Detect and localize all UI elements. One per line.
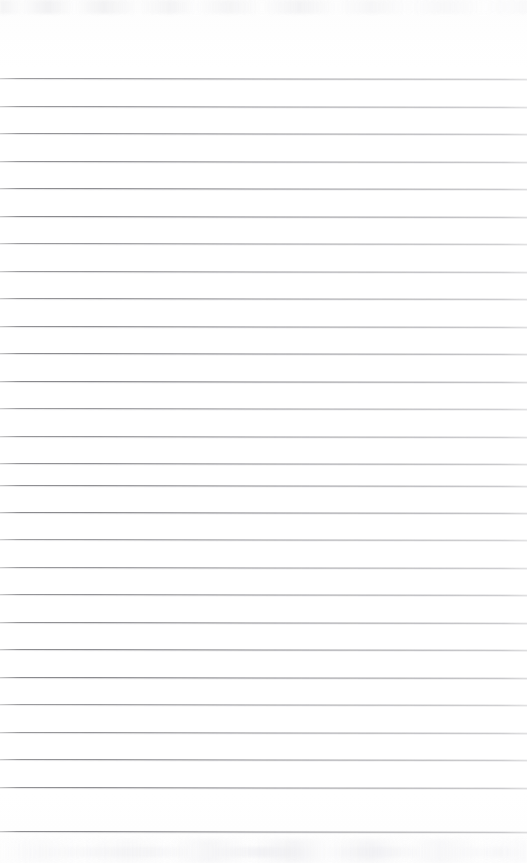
rule-line [0, 216, 527, 218]
rule-line [0, 463, 527, 465]
rule-line [0, 567, 527, 569]
rule-line [0, 326, 527, 328]
rule-line [0, 353, 527, 355]
rule-line [0, 133, 527, 135]
scanned-page [0, 0, 527, 863]
rule-line [0, 436, 527, 438]
rule-line [0, 704, 527, 706]
rule-line [0, 381, 527, 383]
rule-line [0, 78, 527, 80]
rule-line [0, 759, 527, 761]
rule-line [0, 594, 527, 596]
rule-line [0, 408, 527, 410]
rule-line [0, 732, 527, 734]
rule-line [0, 161, 527, 163]
rule-line [0, 787, 527, 789]
rule-line [0, 243, 527, 245]
rule-line [0, 831, 527, 833]
rule-line [0, 485, 527, 487]
rule-line [0, 649, 527, 651]
rule-line [0, 539, 527, 541]
rule-line [0, 271, 527, 273]
rule-line [0, 298, 527, 300]
ruled-lines-group [0, 0, 527, 863]
rule-line [0, 512, 527, 514]
rule-line [0, 622, 527, 624]
rule-line [0, 106, 527, 108]
rule-line [0, 677, 527, 679]
rule-line [0, 188, 527, 190]
